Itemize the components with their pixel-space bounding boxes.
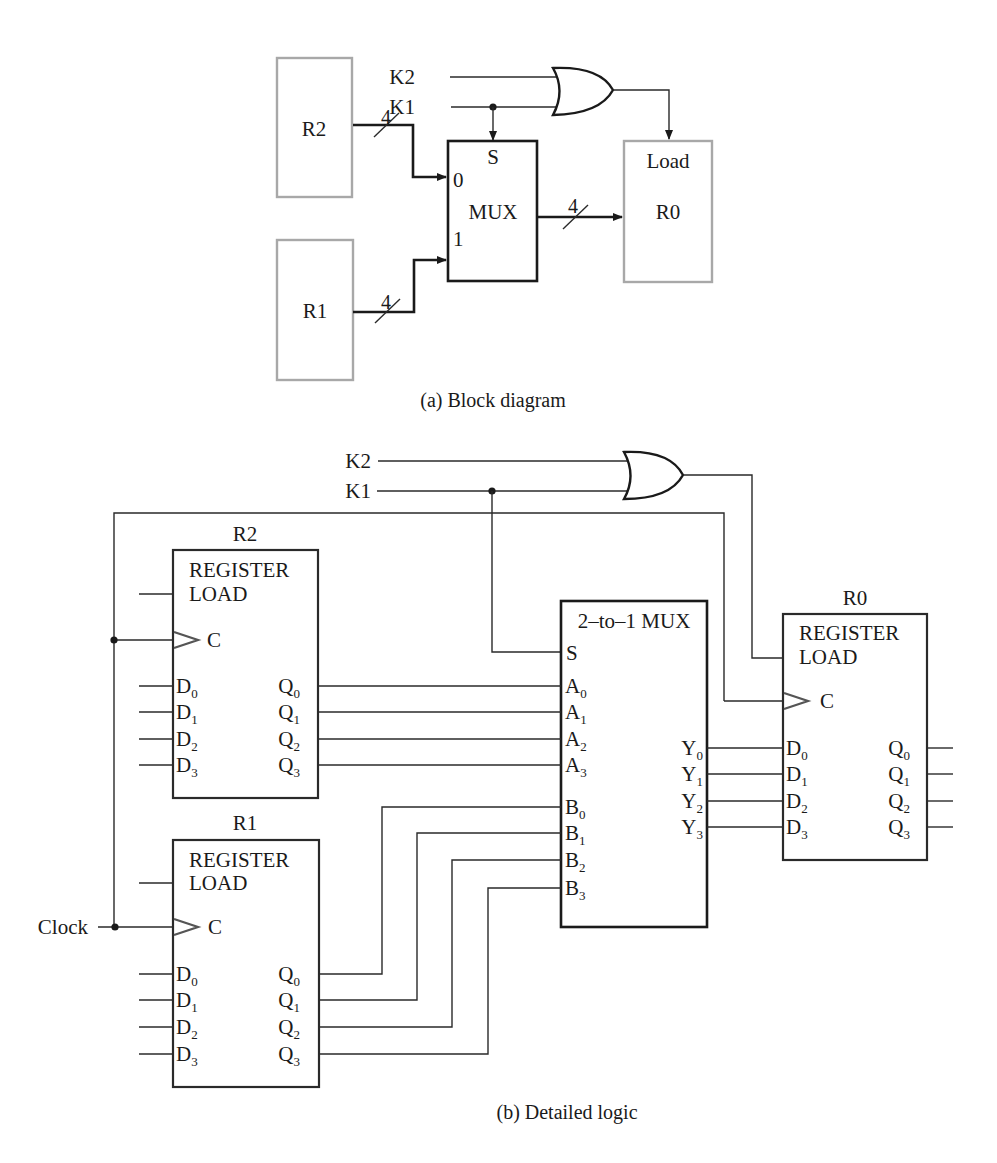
- logic-r1-to-mux-b-wire: [319, 888, 561, 1054]
- logic-r2-title: REGISTER: [189, 558, 289, 582]
- logic-clock-junction-r1: [111, 923, 118, 930]
- block-diagram-caption: (a) Block diagram: [420, 389, 566, 412]
- block-k2-label: K2: [389, 65, 415, 89]
- logic-clock-junction-r2: [110, 636, 117, 643]
- block-r0-load-label: Load: [646, 149, 690, 173]
- block-r1-bus-width: 4: [381, 291, 391, 313]
- block-r2-bus: [353, 125, 446, 177]
- logic-r0-title: REGISTER: [799, 621, 899, 645]
- block-load-wire: [613, 90, 669, 139]
- logic-r0-load-label: LOAD: [799, 645, 857, 669]
- logic-r0-clock-pin: C: [820, 689, 834, 713]
- block-k1-label: K1: [389, 95, 415, 119]
- logic-r1-to-mux-b-wire: [319, 860, 561, 1027]
- block-or-gate-icon: [553, 68, 613, 115]
- logic-r2-label: R2: [233, 522, 258, 546]
- register-transfer-diagram: R2 R1 Load R0 S 0 MUX 1 K2 K1 4 4 4: [0, 0, 997, 1163]
- block-r2-label: R2: [302, 117, 327, 141]
- logic-r1-to-mux-b-wire: [319, 833, 561, 1000]
- logic-mux-select-pin: S: [566, 641, 578, 665]
- logic-r2-clock-pin: C: [207, 628, 221, 652]
- logic-r0-label: R0: [843, 586, 868, 610]
- logic-clock-label: Clock: [38, 915, 89, 939]
- logic-r1-to-mux-b-wire: [319, 807, 561, 974]
- block-mux-label: MUX: [468, 200, 517, 224]
- logic-r1-title: REGISTER: [189, 848, 289, 872]
- logic-k1-label: K1: [345, 479, 371, 503]
- block-mux-in1-label: 1: [453, 227, 464, 251]
- logic-r2-load-label: LOAD: [189, 582, 247, 606]
- block-r1-label: R1: [303, 299, 328, 323]
- block-r1-bus: [353, 260, 446, 312]
- logic-k2-label: K2: [345, 449, 371, 473]
- block-r0-label: R0: [656, 200, 681, 224]
- block-diagram: R2 R1 Load R0 S 0 MUX 1 K2 K1 4 4 4: [277, 58, 712, 412]
- block-r2-bus-width: 4: [381, 106, 391, 128]
- detailed-logic-caption: (b) Detailed logic: [496, 1101, 637, 1124]
- block-out-bus-width: 4: [568, 195, 578, 217]
- logic-select-wire: [492, 491, 561, 652]
- logic-r1-clock-pin: C: [208, 915, 222, 939]
- logic-mux-title: 2–to–1 MUX: [578, 609, 691, 633]
- logic-or-gate-icon: [624, 452, 683, 499]
- block-mux-select-label: S: [487, 145, 499, 169]
- detailed-logic: K2 K1 Clock R2 REGISTER LOAD C R1 REGIST…: [38, 449, 953, 1124]
- logic-r1-label: R1: [233, 811, 258, 835]
- logic-r1-load-label: LOAD: [189, 871, 247, 895]
- block-mux-in0-label: 0: [453, 168, 464, 192]
